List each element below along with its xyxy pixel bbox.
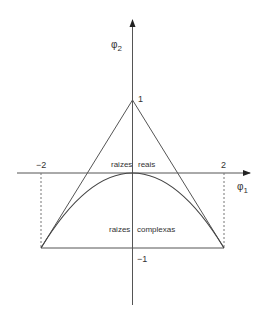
x-axis-label: φ1 (237, 181, 248, 195)
tick-y-pos: 1 (138, 94, 143, 104)
region-complex-left: raizes (109, 225, 130, 234)
stability-diagram: φ2 φ1 1 −1 −2 2 raizes reais raizes comp… (0, 0, 263, 319)
region-complex-right: complexas (137, 225, 175, 234)
region-real-left: raizes (111, 160, 132, 169)
tick-y-neg: −1 (137, 254, 147, 264)
tick-x-neg: −2 (36, 160, 46, 170)
y-axis-label: φ2 (111, 39, 122, 53)
region-real-right: reais (138, 160, 155, 169)
tick-x-pos: 2 (221, 160, 226, 170)
